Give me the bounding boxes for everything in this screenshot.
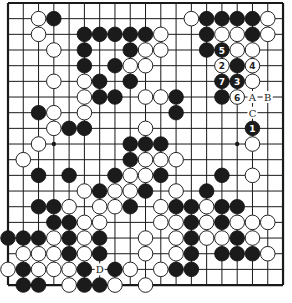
black-stone [169, 105, 184, 120]
black-stone-disc [47, 215, 62, 230]
black-stone [77, 262, 92, 277]
black-stone [62, 215, 77, 230]
black-stone [199, 184, 214, 199]
black-stone [31, 105, 46, 120]
white-stone [154, 27, 169, 42]
black-stone-disc [184, 215, 199, 230]
white-stone-disc [215, 27, 230, 42]
white-stone-disc [47, 105, 62, 120]
black-stone [169, 90, 184, 105]
white-stone [77, 231, 92, 246]
white-stone-disc [138, 58, 153, 73]
white-stone-disc [138, 152, 153, 167]
white-stone [77, 74, 92, 89]
black-stone [138, 137, 153, 152]
white-stone: 2 [215, 58, 230, 73]
white-stone-disc [108, 278, 123, 293]
white-stone [230, 27, 245, 42]
black-stone-disc [230, 246, 245, 261]
white-stone-disc [62, 262, 77, 277]
white-stone [138, 246, 153, 261]
white-stone [199, 199, 214, 214]
white-stone-disc [31, 11, 46, 26]
black-stone: 3 [230, 74, 245, 89]
black-stone-disc [31, 199, 46, 214]
white-stone-disc [47, 231, 62, 246]
move-number: 4 [249, 61, 255, 71]
white-stone-disc [138, 90, 153, 105]
move-number: 3 [234, 77, 240, 87]
white-stone-disc [108, 199, 123, 214]
white-stone [31, 262, 46, 277]
black-stone-disc [123, 152, 138, 167]
white-stone-disc [215, 231, 230, 246]
black-stone [199, 27, 214, 42]
white-stone [31, 11, 46, 26]
white-stone-disc [245, 168, 260, 183]
black-stone [215, 11, 230, 26]
black-stone [62, 231, 77, 246]
white-stone-disc [245, 137, 260, 152]
black-stone-disc [215, 215, 230, 230]
black-stone [77, 58, 92, 73]
black-stone-disc [123, 137, 138, 152]
black-stone-disc [184, 246, 199, 261]
white-stone-disc [169, 152, 184, 167]
white-stone-disc [77, 105, 92, 120]
white-stone-disc [47, 74, 62, 89]
white-stone [260, 27, 275, 42]
black-stone-disc [62, 231, 77, 246]
white-stone-disc [123, 58, 138, 73]
black-stone [16, 262, 31, 277]
black-stone [77, 278, 92, 293]
black-stone [245, 11, 260, 26]
black-stone-disc [62, 246, 77, 261]
black-stone [108, 90, 123, 105]
white-stone [138, 90, 153, 105]
black-stone-disc [154, 137, 169, 152]
black-stone-disc [92, 246, 107, 261]
white-stone [31, 137, 46, 152]
black-stone-disc [62, 215, 77, 230]
white-stone [215, 231, 230, 246]
black-stone-disc [16, 231, 31, 246]
black-stone [215, 246, 230, 261]
white-stone-disc [16, 152, 31, 167]
black-stone-disc [123, 27, 138, 42]
black-stone-disc [62, 168, 77, 183]
black-stone-disc [215, 11, 230, 26]
white-stone-disc [199, 231, 214, 246]
white-stone [230, 43, 245, 58]
white-stone-disc [245, 74, 260, 89]
move-number: 5 [219, 46, 225, 56]
white-stone [77, 105, 92, 120]
black-stone [230, 246, 245, 261]
white-stone-disc [123, 262, 138, 277]
white-stone-disc [260, 11, 275, 26]
black-stone [47, 215, 62, 230]
white-stone-disc [230, 43, 245, 58]
black-stone-disc [184, 231, 199, 246]
white-stone-disc [154, 215, 169, 230]
black-stone-disc [169, 262, 184, 277]
black-stone [108, 168, 123, 183]
move-number: 6 [234, 93, 240, 103]
white-stone-disc [260, 215, 275, 230]
black-stone [230, 11, 245, 26]
white-stone-disc [199, 199, 214, 214]
white-stone-disc [138, 43, 153, 58]
black-stone-disc [92, 74, 107, 89]
white-stone [77, 184, 92, 199]
white-stone [47, 246, 62, 261]
white-stone-disc [169, 231, 184, 246]
black-stone-disc [108, 90, 123, 105]
black-stone [31, 278, 46, 293]
black-stone-disc [77, 278, 92, 293]
white-stone-disc [138, 168, 153, 183]
black-stone-disc [31, 231, 46, 246]
black-stone-disc [199, 11, 214, 26]
white-stone-disc [138, 121, 153, 136]
black-stone [16, 231, 31, 246]
white-stone [47, 231, 62, 246]
black-stone-disc [138, 184, 153, 199]
